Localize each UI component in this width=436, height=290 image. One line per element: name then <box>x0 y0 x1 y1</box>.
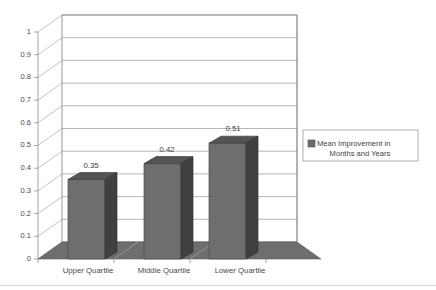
legend-label-line1: Mean Improvement in <box>317 139 390 148</box>
bar-middle-quartile[interactable] <box>144 157 193 259</box>
x-category-label-middle: Middle Quartile <box>138 266 190 275</box>
y-tick-label: 0 <box>27 254 31 263</box>
y-tick-label: 0.5 <box>21 140 31 149</box>
depth-connectors-left <box>38 15 62 259</box>
y-tick-label: 0.9 <box>21 50 31 59</box>
x-category-label-upper: Upper Quartile <box>63 266 114 275</box>
y-tick-label: 0.8 <box>21 72 31 81</box>
bar-upper-quartile[interactable] <box>68 173 117 260</box>
y-tick-label: 1 <box>27 27 31 36</box>
legend-swatch-icon <box>308 140 315 147</box>
legend-label-line2: Months and Years <box>330 149 391 158</box>
x-axis-labels: Upper Quartile Middle Quartile Lower Qua… <box>63 266 266 275</box>
y-axis-ticks <box>34 32 38 259</box>
y-tick-label: 0.3 <box>21 186 31 195</box>
y-tick-label: 0.2 <box>21 209 31 218</box>
x-axis-ticks <box>38 259 266 263</box>
y-tick-label: 0.7 <box>21 95 31 104</box>
y-axis-labels: 1 0.9 0.8 0.7 0.6 0.5 0.4 0.3 0.2 0.1 0 <box>21 27 31 263</box>
y-tick-label: 0.6 <box>21 118 31 127</box>
bar-value-label-lower: 0.51 <box>225 124 240 133</box>
chart-legend[interactable]: Mean Improvement in Months and Years <box>303 130 418 161</box>
bar-value-label-upper: 0.35 <box>83 161 99 170</box>
y-tick-label: 0.4 <box>21 163 31 172</box>
bar-value-label-middle: 0.42 <box>159 145 174 154</box>
bar-lower-quartile[interactable] <box>209 136 258 259</box>
y-tick-label: 0.1 <box>21 231 31 240</box>
chart-container: 1 0.9 0.8 0.7 0.6 0.5 0.4 0.3 0.2 0.1 0 <box>0 0 436 290</box>
bar-chart-svg: 1 0.9 0.8 0.7 0.6 0.5 0.4 0.3 0.2 0.1 0 <box>0 0 436 290</box>
x-category-label-lower: Lower Quartile <box>215 266 266 275</box>
